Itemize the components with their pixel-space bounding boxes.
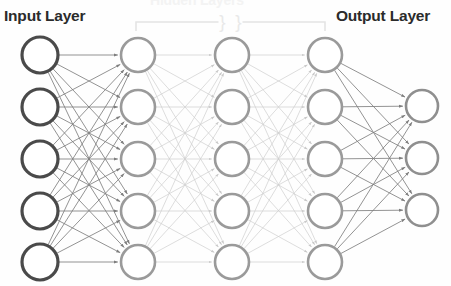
neuron-hidden-3-2	[308, 90, 342, 124]
connection-edge	[57, 220, 120, 253]
connection-edge	[154, 64, 215, 98]
neuron-hidden-1-5	[121, 245, 155, 279]
connection-edge	[154, 221, 214, 254]
connection-edge	[248, 116, 308, 149]
neuron-hidden-3-3	[308, 142, 342, 176]
neuron-output-3	[406, 194, 438, 226]
connection-edge	[57, 64, 120, 98]
input-layer-label: Input Layer	[4, 8, 85, 24]
neuron-hidden-1-3	[121, 142, 155, 176]
connection-edge	[57, 64, 120, 98]
connection-edge	[241, 72, 314, 195]
neuron-hidden-1-2	[121, 90, 155, 124]
neuron-input-2	[22, 89, 58, 125]
connection-edge	[248, 220, 308, 253]
connection-edge	[154, 116, 215, 150]
connection-edge	[248, 65, 308, 98]
connection-edge	[147, 122, 221, 244]
neuron-hidden-2-2	[215, 90, 249, 124]
connection-edge	[241, 122, 314, 244]
neuron-hidden-1-4	[121, 194, 155, 228]
connection-edge	[341, 219, 405, 253]
connection-edge	[57, 116, 120, 150]
neuron-input-4	[22, 193, 58, 229]
connection-edge	[248, 64, 308, 97]
neuron-input-5	[22, 244, 58, 280]
connection-edge	[241, 124, 314, 246]
output-layer-label: Output Layer	[336, 8, 430, 24]
neuron-input-1	[22, 37, 58, 73]
connection-edge	[154, 65, 215, 99]
hidden-layers-label: Hidden Layers	[150, 0, 244, 7]
connection-edge	[154, 117, 215, 151]
connection-edge	[145, 73, 223, 245]
neuron-hidden-2-3	[215, 142, 249, 176]
connection-edge	[241, 70, 314, 193]
connection-edge	[48, 72, 129, 244]
neuron-input-3	[22, 141, 58, 177]
bracket-segment	[136, 22, 219, 31]
neuron-hidden-3-5	[308, 245, 342, 279]
neuron-hidden-3-4	[308, 194, 342, 228]
connection-edge	[147, 70, 221, 193]
connection-edge	[248, 221, 308, 254]
bracket-break-glyph: }	[219, 11, 225, 32]
connection-edge	[50, 124, 127, 246]
connection-edge	[50, 123, 127, 245]
connection-edge	[239, 73, 316, 245]
neuron-hidden-2-5	[215, 245, 249, 279]
connection-edge	[147, 72, 221, 195]
connection-edge	[154, 168, 215, 202]
connection-edge	[50, 72, 127, 195]
connection-edge	[248, 117, 308, 150]
neuron-hidden-2-1	[215, 38, 249, 72]
connection-edge	[341, 63, 405, 97]
connection-edge	[248, 168, 308, 201]
connection-edge	[343, 106, 403, 107]
neuron-hidden-3-1	[308, 38, 342, 72]
neuron-output-1	[406, 90, 438, 122]
connection-edge	[335, 122, 412, 246]
neuron-output-2	[406, 142, 438, 174]
bracket-segment	[243, 22, 326, 31]
hidden-layers-bracket: }}	[136, 11, 325, 32]
bracket-break-glyph: }	[235, 11, 241, 32]
network-canvas: }}	[0, 0, 451, 286]
connection-edge	[147, 124, 221, 246]
neural-network-diagram: }} Hidden Layers Input Layer Output Laye…	[0, 0, 451, 286]
connection-edge	[154, 220, 214, 253]
connection-edge	[239, 71, 316, 243]
connection-edge	[57, 220, 120, 253]
connection-edge	[145, 71, 223, 243]
neuron-hidden-2-4	[215, 194, 249, 228]
neuron-hidden-1-1	[121, 38, 155, 72]
